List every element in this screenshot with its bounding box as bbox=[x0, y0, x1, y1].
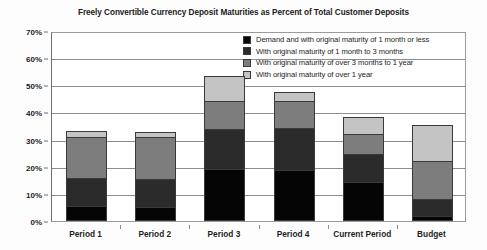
bar-segment[interactable] bbox=[135, 137, 176, 178]
bar-segment[interactable] bbox=[274, 170, 315, 221]
y-tick-mark bbox=[44, 32, 48, 33]
legend-label: With original maturity of 1 month to 3 m… bbox=[256, 47, 403, 56]
bar-segment[interactable] bbox=[412, 125, 453, 161]
y-tick-mark bbox=[44, 194, 48, 195]
bar-segment[interactable] bbox=[66, 178, 107, 206]
y-tick-mark bbox=[44, 222, 48, 223]
gridline bbox=[52, 168, 465, 169]
y-tick-label: 20% bbox=[26, 163, 42, 172]
y-tick-mark bbox=[44, 86, 48, 87]
y-tick-label: 30% bbox=[26, 136, 42, 145]
legend-swatch-icon bbox=[243, 59, 251, 67]
gridline bbox=[52, 141, 465, 142]
y-tick-label: 50% bbox=[26, 82, 42, 91]
y-tick-mark bbox=[44, 113, 48, 114]
legend-item[interactable]: Demand and with original maturity of 1 m… bbox=[243, 34, 468, 46]
x-tick-label: Period 3 bbox=[208, 229, 241, 239]
bar-segment[interactable] bbox=[343, 154, 384, 183]
x-tick-mark bbox=[328, 225, 329, 229]
bar-segment[interactable] bbox=[204, 129, 245, 170]
x-axis: Period 1Period 2Period 3Period 4Current … bbox=[51, 225, 466, 247]
bar-segment[interactable] bbox=[343, 134, 384, 154]
x-tick-mark bbox=[120, 225, 121, 229]
bar-group[interactable] bbox=[204, 31, 245, 221]
y-tick-mark bbox=[44, 140, 48, 141]
legend-label: With original maturity of over 1 year bbox=[256, 70, 372, 79]
bar-segment[interactable] bbox=[343, 182, 384, 221]
bar-segment[interactable] bbox=[274, 101, 315, 128]
y-axis: 0%10%20%30%40%50%60%70% bbox=[0, 32, 48, 222]
chart-container: Freely Convertible Currency Deposit Matu… bbox=[0, 0, 487, 250]
legend-label: With original maturity of over 3 months … bbox=[256, 58, 413, 67]
chart-legend: Demand and with original maturity of 1 m… bbox=[243, 34, 468, 80]
y-tick-label: 70% bbox=[26, 28, 42, 37]
bar-segment[interactable] bbox=[204, 169, 245, 221]
legend-item[interactable]: With original maturity of 1 month to 3 m… bbox=[243, 46, 468, 58]
bar-segment[interactable] bbox=[412, 161, 453, 199]
gridline bbox=[52, 113, 465, 114]
y-tick-mark bbox=[44, 167, 48, 168]
gridline bbox=[52, 86, 465, 87]
y-tick-label: 10% bbox=[26, 190, 42, 199]
bar-segment[interactable] bbox=[274, 92, 315, 101]
x-tick-label: Period 4 bbox=[277, 229, 310, 239]
y-tick-label: 40% bbox=[26, 109, 42, 118]
x-tick-mark bbox=[259, 225, 260, 229]
legend-swatch-icon bbox=[243, 36, 251, 44]
chart-title: Freely Convertible Currency Deposit Matu… bbox=[0, 8, 487, 17]
legend-item[interactable]: With original maturity of over 1 year bbox=[243, 69, 468, 81]
bar-segment[interactable] bbox=[66, 206, 107, 221]
y-tick-label: 0% bbox=[30, 218, 42, 227]
bar-segment[interactable] bbox=[204, 101, 245, 128]
x-tick-label: Current Period bbox=[333, 229, 391, 239]
bar-segment[interactable] bbox=[343, 117, 384, 134]
y-tick-label: 60% bbox=[26, 55, 42, 64]
bar-group[interactable] bbox=[135, 31, 176, 221]
gridline bbox=[52, 195, 465, 196]
bar-segment[interactable] bbox=[66, 137, 107, 178]
bar-segment[interactable] bbox=[135, 207, 176, 221]
x-tick-label: Period 1 bbox=[69, 229, 102, 239]
x-tick-label: Budget bbox=[417, 229, 446, 239]
x-tick-mark bbox=[397, 225, 398, 229]
legend-label: Demand and with original maturity of 1 m… bbox=[256, 35, 429, 44]
bar-group[interactable] bbox=[66, 31, 107, 221]
bar-segment[interactable] bbox=[135, 179, 176, 207]
legend-item[interactable]: With original maturity of over 3 months … bbox=[243, 57, 468, 69]
bar-segment[interactable] bbox=[274, 128, 315, 171]
x-tick-mark bbox=[189, 225, 190, 229]
x-tick-label: Period 2 bbox=[138, 229, 171, 239]
bar-segment[interactable] bbox=[204, 76, 245, 101]
y-tick-mark bbox=[44, 59, 48, 60]
legend-swatch-icon bbox=[243, 47, 251, 55]
bar-segment[interactable] bbox=[412, 216, 453, 221]
bar-segment[interactable] bbox=[412, 199, 453, 215]
